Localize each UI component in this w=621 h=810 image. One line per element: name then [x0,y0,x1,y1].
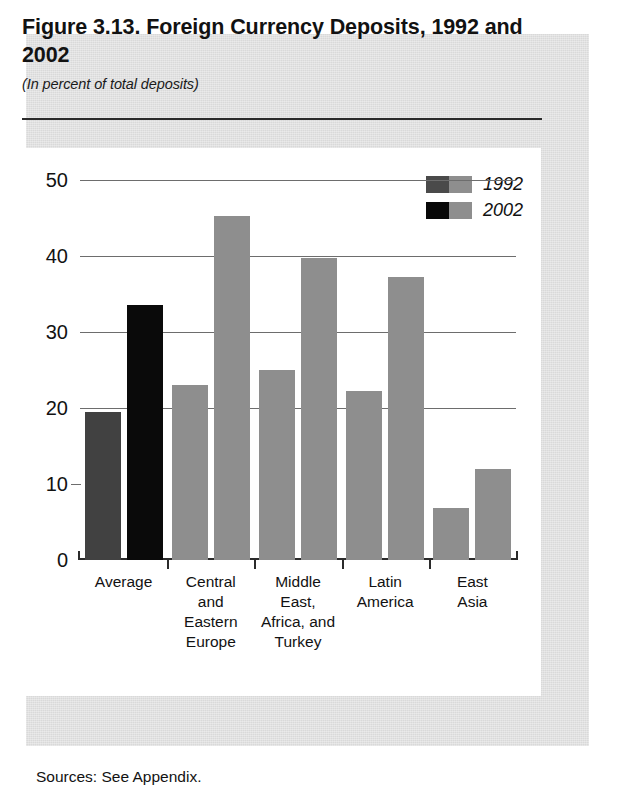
bar-1992-average [85,412,121,560]
bar-2002-middle [301,258,337,560]
y-axis-label-30: 30 [46,321,68,344]
bar-2002-central [214,216,250,560]
x-axis-right-cap [516,551,518,560]
bar-2002-east [475,469,511,560]
group-separator-tick [167,560,169,569]
plot-card: 1992 2002 01020304050AverageCentralandEa… [22,148,541,696]
bar-2002-latin [388,277,424,560]
gridline-50 [80,180,516,181]
y-axis-label-40: 40 [46,245,68,268]
figure-heading: Figure 3.13. Foreign Currency Deposits, … [22,14,542,92]
source-note: Sources: See Appendix. [36,768,201,786]
bar-1992-central [172,385,208,560]
bar-2002-average [127,305,163,560]
x-axis-label-east: EastAsia [417,572,527,612]
x-axis-left-cap [78,551,80,560]
group-separator-tick [254,560,256,569]
group-separator-tick [342,560,344,569]
bar-1992-middle [259,370,295,560]
plot-area: 01020304050AverageCentralandEasternEurop… [80,180,516,560]
figure-title: Figure 3.13. Foreign Currency Deposits, … [22,14,542,70]
title-divider [22,118,542,120]
y-axis-label-0: 0 [57,549,68,572]
y-axis-label-20: 20 [46,397,68,420]
bar-1992-east [433,508,469,560]
figure-page: Figure 3.13. Foreign Currency Deposits, … [0,0,621,810]
y-axis-label-10: 10 [46,473,68,496]
y-tick-10 [71,484,81,485]
gridline-40 [80,256,516,257]
y-axis-label-50: 50 [46,169,68,192]
group-separator-tick [429,560,431,569]
figure-subtitle: (In percent of total deposits) [22,76,542,92]
bar-1992-latin [346,391,382,560]
